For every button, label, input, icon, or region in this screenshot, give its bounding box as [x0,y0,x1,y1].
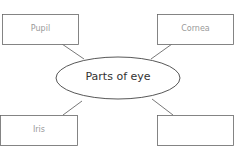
connector-pupil [62,44,84,59]
label-pupil: Pupil [2,14,79,44]
label-cornea: Cornea [157,14,234,44]
connector-empty [152,99,173,115]
label-iris: Iris [0,115,78,145]
connector-cornea [151,44,172,59]
center-title: Parts of eye [56,69,180,85]
connector-iris [63,101,82,115]
label-empty [157,115,234,145]
